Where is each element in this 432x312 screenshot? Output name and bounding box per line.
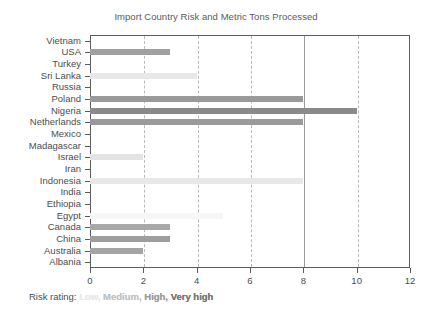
y-axis-label-mexico: Mexico bbox=[51, 129, 81, 139]
x-axis-tick-12 bbox=[410, 268, 411, 273]
x-axis-tick-6 bbox=[250, 268, 251, 273]
y-axis-label-poland: Poland bbox=[51, 94, 81, 104]
y-axis-label-russia: Russia bbox=[52, 82, 81, 92]
y-axis-label-india: India bbox=[60, 187, 81, 197]
x-axis-label-12: 12 bbox=[405, 275, 416, 286]
y-axis-tick-10 bbox=[85, 157, 90, 158]
y-axis-tick-16 bbox=[85, 227, 90, 228]
legend-swatch-3: Very high bbox=[168, 291, 213, 302]
y-axis-tick-19 bbox=[85, 262, 90, 263]
y-axis-label-vietnam: Vietnam bbox=[46, 36, 81, 46]
y-axis: VietnamUSATurkeySri LankaRussiaPolandNig… bbox=[0, 35, 90, 268]
y-axis-tick-5 bbox=[85, 99, 90, 100]
y-axis-tick-2 bbox=[85, 64, 90, 65]
x-axis-label-0: 0 bbox=[87, 275, 92, 286]
legend-swatch-list: Low, Medium, High, Very high bbox=[79, 291, 213, 302]
y-axis-label-nigeria: Nigeria bbox=[51, 106, 81, 116]
gridline-4 bbox=[198, 36, 199, 267]
x-axis-label-4: 4 bbox=[194, 275, 199, 286]
x-axis-label-8: 8 bbox=[301, 275, 306, 286]
bar-chart: Import Country Risk and Metric Tons Proc… bbox=[0, 0, 432, 312]
gridline-8 bbox=[304, 36, 305, 267]
y-axis-tick-4 bbox=[85, 87, 90, 88]
y-axis-tick-17 bbox=[85, 239, 90, 240]
y-axis-label-australia: Australia bbox=[44, 246, 81, 256]
y-axis-label-iran: Iran bbox=[65, 164, 81, 174]
gridline-10 bbox=[358, 36, 359, 267]
y-axis-tick-3 bbox=[85, 76, 90, 77]
y-axis-label-israel: Israel bbox=[58, 152, 81, 162]
x-axis-tick-0 bbox=[90, 268, 91, 273]
chart-title: Import Country Risk and Metric Tons Proc… bbox=[0, 11, 432, 22]
x-axis-label-2: 2 bbox=[141, 275, 146, 286]
y-axis-tick-13 bbox=[85, 192, 90, 193]
y-axis-label-madagascar: Madagascar bbox=[29, 141, 81, 151]
legend-lead-label: Risk rating: bbox=[29, 291, 77, 302]
x-axis-tick-10 bbox=[357, 268, 358, 273]
y-axis-tick-8 bbox=[85, 134, 90, 135]
risk-rating-legend: Risk rating: Low, Medium, High, Very hig… bbox=[29, 291, 213, 302]
y-axis-tick-14 bbox=[85, 204, 90, 205]
plot-area bbox=[90, 35, 410, 268]
y-axis-label-albania: Albania bbox=[49, 257, 81, 267]
gridline-6 bbox=[251, 36, 252, 267]
y-axis-tick-15 bbox=[85, 216, 90, 217]
y-axis-label-egypt: Egypt bbox=[57, 211, 81, 221]
y-axis-tick-6 bbox=[85, 111, 90, 112]
y-axis-tick-1 bbox=[85, 52, 90, 53]
x-axis-label-6: 6 bbox=[247, 275, 252, 286]
gridline-2 bbox=[144, 36, 145, 267]
y-axis-tick-9 bbox=[85, 146, 90, 147]
y-axis-label-sri-lanka: Sri Lanka bbox=[41, 71, 81, 81]
y-axis-tick-18 bbox=[85, 251, 90, 252]
y-axis-label-indonesia: Indonesia bbox=[40, 176, 81, 186]
legend-swatch-1: Medium, bbox=[100, 291, 141, 302]
y-axis-tick-11 bbox=[85, 169, 90, 170]
y-axis-label-netherlands: Netherlands bbox=[30, 117, 81, 127]
x-axis-tick-8 bbox=[303, 268, 304, 273]
y-axis-label-turkey: Turkey bbox=[52, 59, 81, 69]
legend-swatch-0: Low, bbox=[79, 291, 100, 302]
y-axis-tick-12 bbox=[85, 181, 90, 182]
y-axis-label-ethiopia: Ethiopia bbox=[47, 199, 81, 209]
y-axis-label-usa: USA bbox=[61, 47, 81, 57]
y-axis-label-china: China bbox=[56, 234, 81, 244]
y-axis-tick-0 bbox=[85, 41, 90, 42]
x-axis-tick-2 bbox=[143, 268, 144, 273]
legend-swatch-2: High, bbox=[142, 291, 168, 302]
x-axis-label-10: 10 bbox=[351, 275, 362, 286]
y-axis-label-canada: Canada bbox=[48, 222, 81, 232]
y-axis-tick-7 bbox=[85, 122, 90, 123]
x-axis-tick-4 bbox=[197, 268, 198, 273]
